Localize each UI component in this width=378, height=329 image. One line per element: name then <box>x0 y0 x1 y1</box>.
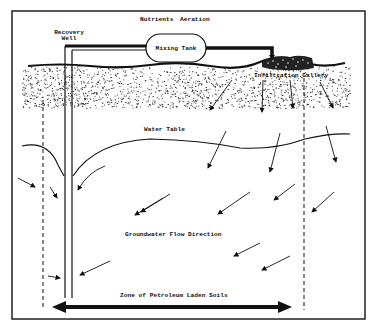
water-table-label: Water Table <box>144 126 185 133</box>
mixing-tank-label: Mixing Tank <box>156 45 197 52</box>
remediation-diagram: Mixing Tank Nutrients Aeration Recovery … <box>0 0 378 329</box>
nutrients-label: Nutrients <box>140 16 174 23</box>
groundwater-flow-label: Groundwater Flow Direction <box>125 231 222 238</box>
recovery-well-label-line2: Well <box>62 35 77 42</box>
flow-arrows <box>18 80 336 278</box>
aeration-label: Aeration <box>180 16 210 23</box>
infiltration-gallery-label: Infiltration Gallery <box>254 72 329 79</box>
zone-label: Zone of Petroleum Laden Soils <box>120 292 228 299</box>
zone-arrow <box>52 301 292 313</box>
water-table <box>22 134 350 176</box>
recovery-well <box>65 46 72 298</box>
